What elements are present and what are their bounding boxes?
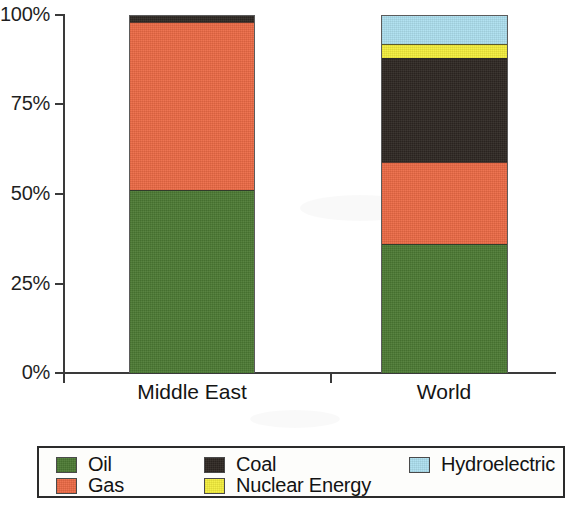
legend-item-oil: Oil xyxy=(56,453,112,476)
plot-area xyxy=(64,15,556,373)
bar-segment-middle-east-oil xyxy=(130,190,254,373)
y-tick-label-0: 0% xyxy=(22,361,50,384)
scan-artifact xyxy=(250,410,340,428)
legend-label-oil: Oil xyxy=(88,453,112,476)
legend-swatch-gas-icon xyxy=(56,478,77,494)
x-category-label-middle-east: Middle East xyxy=(92,380,292,404)
legend-label-gas: Gas xyxy=(88,474,124,497)
y-tick-label-50: 50% xyxy=(11,182,50,205)
y-tick-mark-75 xyxy=(55,103,64,105)
legend-item-nuclear-energy: Nuclear Energy xyxy=(204,474,371,497)
legend-item-gas: Gas xyxy=(56,474,124,497)
bar-segment-middle-east-coal xyxy=(130,15,254,22)
bar-segment-world-nuclear-energy xyxy=(382,44,507,58)
x-tick-mark-between xyxy=(330,374,332,383)
y-tick-label-100: 100% xyxy=(0,3,50,26)
y-tick-mark-50 xyxy=(55,193,64,195)
legend: Oil Gas Coal Nuclear Energy Hydroelectri… xyxy=(37,446,565,498)
legend-label-nuclear-energy: Nuclear Energy xyxy=(236,474,371,497)
legend-swatch-hydroelectric-icon xyxy=(409,457,430,473)
legend-label-coal: Coal xyxy=(236,453,276,476)
y-tick-label-75: 75% xyxy=(11,92,50,115)
y-tick-label-25: 25% xyxy=(11,272,50,295)
y-tick-mark-100 xyxy=(55,14,64,16)
bar-world xyxy=(381,15,508,373)
x-category-label-world: World xyxy=(344,380,544,404)
legend-label-hydroelectric: Hydroelectric xyxy=(441,453,555,476)
legend-item-hydroelectric: Hydroelectric xyxy=(409,453,555,476)
bar-segment-world-oil xyxy=(382,244,507,373)
bar-segment-world-gas xyxy=(382,162,507,244)
stacked-bar-chart: 100% 75% 50% 25% 0% Middle East World Oi… xyxy=(0,0,572,506)
x-tick-mark-origin xyxy=(63,374,65,383)
bar-segment-world-hydroelectric xyxy=(382,15,507,44)
legend-item-coal: Coal xyxy=(204,453,276,476)
legend-swatch-oil-icon xyxy=(56,457,77,473)
bar-segment-world-coal xyxy=(382,58,507,162)
y-tick-mark-25 xyxy=(55,283,64,285)
legend-swatch-coal-icon xyxy=(204,457,225,473)
legend-swatch-nuclear-energy-icon xyxy=(204,478,225,494)
bar-middle-east xyxy=(129,15,255,373)
bar-segment-middle-east-gas xyxy=(130,22,254,190)
